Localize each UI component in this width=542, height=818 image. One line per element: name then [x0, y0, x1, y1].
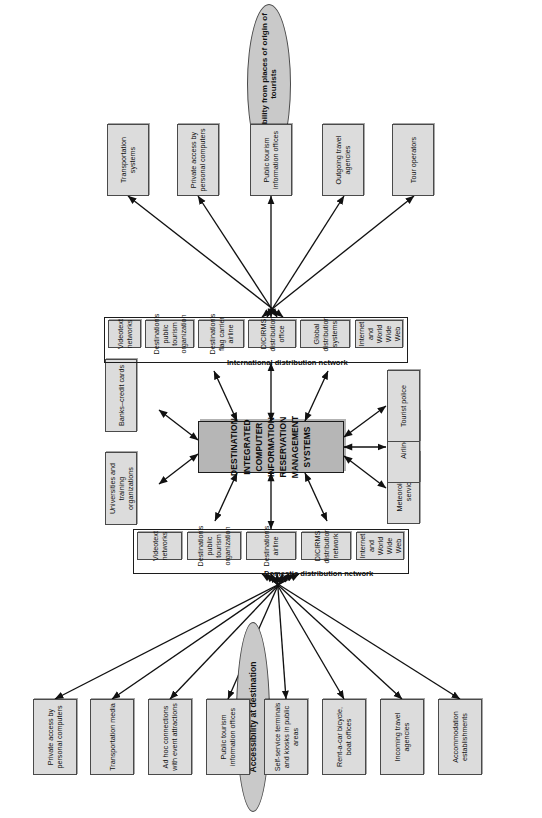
- node-label: DICIRMS distribution network: [313, 529, 340, 564]
- group-label-domestic: Domestic distribution network: [264, 569, 373, 578]
- node-domestic-internet[interactable]: Internet and World Wide Web: [356, 532, 404, 560]
- node-incoming-travel-agencies[interactable]: Incoming travel agencies: [380, 699, 424, 775]
- node-universities-and-training[interactable]: Universities and training organizations: [105, 452, 137, 525]
- group-label-international: International distribution network: [227, 358, 348, 367]
- node-intl-videotext[interactable]: Videotext networks: [108, 320, 141, 348]
- node-tourist-police[interactable]: Tourist police: [387, 370, 420, 442]
- node-intl-dicirms[interactable]: DICIRMS distribution office: [248, 320, 296, 348]
- node-label: Private access by personal computers: [189, 127, 207, 193]
- node-label: Transportation systems: [119, 127, 137, 193]
- node-label: Outgoing travel agencies: [334, 127, 352, 193]
- node-label: Rent-a-car bicycle, boat offices: [335, 702, 353, 772]
- node-private-access-pc-origin[interactable]: Private access by personal computers: [177, 124, 219, 196]
- node-label: Universities and training organizations: [108, 455, 135, 522]
- node-label: Accommodation establishments: [451, 702, 469, 772]
- node-self-service-terminals[interactable]: Self-service terminals and kiosks in pub…: [264, 699, 308, 775]
- node-public-tourism-information-offices[interactable]: Public tourism information offices: [206, 699, 250, 775]
- node-label: Banks–credit cards: [117, 365, 126, 426]
- node-ad-hoc-connections[interactable]: Ad hoc connections with event attraction…: [148, 699, 192, 775]
- node-label: Videotext networks: [116, 319, 134, 349]
- node-accommodation-establishments[interactable]: Accommodation establishments: [438, 699, 482, 775]
- node-public-tourism-information-offices-origin[interactable]: Public tourism information offices: [250, 124, 292, 196]
- node-tour-operators[interactable]: Tour operators: [392, 124, 434, 196]
- node-label: Videotext networks: [151, 531, 169, 561]
- node-intl-flag-carrier[interactable]: Destination's flag carrier airline: [198, 320, 244, 348]
- node-label: Destination's public tourism organizatio…: [196, 526, 232, 567]
- diagram-rotation-wrapper: Accessibility at destination Accessibili…: [0, 0, 542, 818]
- node-intl-internet[interactable]: Internet and World Wide Web: [355, 320, 403, 348]
- node-label: Public tourism information offices: [219, 702, 237, 772]
- node-label: Destination's flag carrier airline: [208, 314, 235, 355]
- node-label: Self-service terminals and kiosks in pub…: [273, 702, 300, 772]
- node-label: Transportation media: [108, 703, 117, 771]
- node-transportation-media[interactable]: Transportation media: [90, 699, 134, 775]
- node-transportation-systems[interactable]: Transportation systems: [107, 124, 149, 196]
- diagram-canvas: Accessibility at destination Accessibili…: [0, 0, 542, 818]
- node-rent-a-car-offices[interactable]: Rent-a-car bicycle, boat offices: [322, 699, 366, 775]
- node-intl-public-tourism-org[interactable]: Destination's public tourism organizatio…: [145, 320, 194, 348]
- node-domestic-videotext[interactable]: Videotext networks: [137, 532, 182, 560]
- node-intl-gds[interactable]: Global distribution systems: [300, 320, 350, 348]
- node-label: Global distribution systems: [312, 317, 339, 352]
- node-label: Incoming travel agencies: [393, 702, 411, 772]
- node-outgoing-travel-agencies[interactable]: Outgoing travel agencies: [322, 124, 364, 196]
- node-domestic-public-tourism-org[interactable]: Destination's public tourism organizatio…: [187, 532, 241, 560]
- node-banks-credit-cards[interactable]: Banks–credit cards: [105, 359, 137, 432]
- node-label: Destination's airline: [262, 526, 280, 567]
- node-domestic-airline[interactable]: Destination's airline: [246, 532, 296, 560]
- hub-dicirms[interactable]: DESTINATION INTEGRATED COMPUTER INFORMAT…: [198, 421, 344, 473]
- node-label: Private access by personal computers: [46, 702, 64, 772]
- node-label: Internet and World Wide Web: [358, 534, 403, 558]
- hub-label: DESTINATION INTEGRATED COMPUTER INFORMAT…: [228, 416, 313, 478]
- node-label: DICIRMS distribution office: [259, 317, 286, 352]
- node-private-access-pc-destination[interactable]: Private access by personal computers: [33, 699, 77, 775]
- node-label: Tour operators: [409, 137, 418, 183]
- node-label: Ad hoc connections with event attraction…: [161, 702, 179, 772]
- node-label: Destination's public tourism organizatio…: [152, 314, 188, 355]
- node-label: Public tourism information offices: [262, 127, 280, 193]
- node-domestic-dicirms[interactable]: DICIRMS distribution network: [301, 532, 351, 560]
- node-label: Tourist police: [399, 385, 408, 427]
- node-label: Internet and World Wide Web: [357, 322, 402, 346]
